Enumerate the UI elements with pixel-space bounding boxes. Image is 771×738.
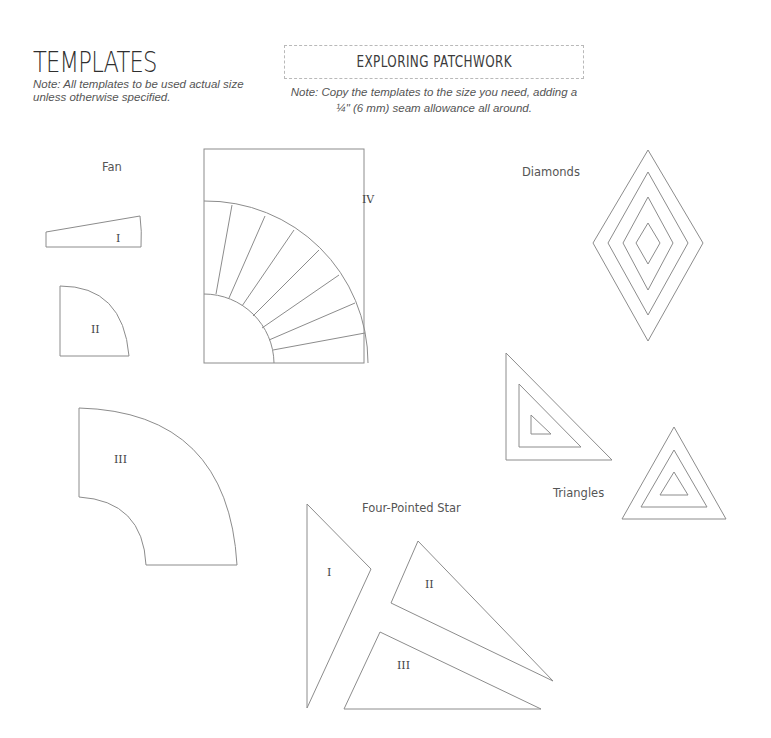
fan-block-4: IV xyxy=(204,149,375,363)
fan-piece-1-label: I xyxy=(116,232,120,245)
templates-artwork: I II III IV xyxy=(0,0,771,738)
diamond-templates xyxy=(593,150,703,341)
right-triangle-templates xyxy=(506,353,612,460)
star-piece-2-label: II xyxy=(425,578,434,591)
star-piece-3-label: III xyxy=(397,659,410,672)
fan-block-4-label: IV xyxy=(362,193,375,206)
star-piece-2: II xyxy=(391,541,553,681)
fan-piece-2: II xyxy=(60,286,129,356)
fan-piece-1: I xyxy=(46,216,141,247)
star-piece-1: I xyxy=(307,504,371,708)
star-piece-1-label: I xyxy=(327,566,331,579)
equilateral-triangle-templates xyxy=(622,427,726,519)
fan-piece-2-label: II xyxy=(91,323,100,336)
fan-piece-3-label: III xyxy=(114,453,127,466)
fan-piece-3: III xyxy=(79,408,237,565)
star-piece-3: III xyxy=(344,632,541,709)
